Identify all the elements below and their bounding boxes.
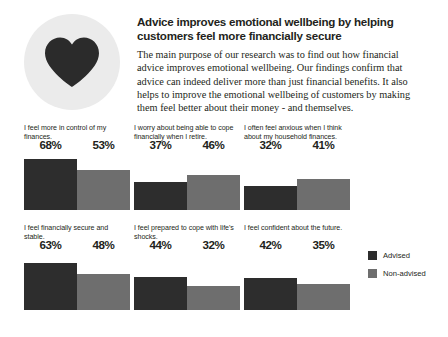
bar-fill-nonadvised [77,170,130,210]
chart-grid: I feel more in control of my finances. 6… [0,118,448,318]
bar-value-advised: 37% [134,138,187,152]
bar-value-nonadvised: 41% [297,138,350,152]
intro-paragraph: The main purpose of our research was to … [137,48,425,114]
bar-fill-advised [244,278,297,310]
bar-nonadvised: 32% [187,252,240,310]
bar-value-advised: 68% [24,138,77,152]
chart-panel: I worry about being able to cope financi… [134,118,244,218]
chart-legend: Advised Non-advised [368,251,426,287]
bar-nonadvised: 46% [187,152,240,210]
header-text: Advice improves emotional wellbeing by h… [137,10,440,114]
bar-group: 44% 32% [134,252,240,310]
bar-value-nonadvised: 53% [77,138,130,152]
bar-value-advised: 44% [134,238,187,252]
bar-value-nonadvised: 35% [297,238,350,252]
bar-value-advised: 32% [244,138,297,152]
legend-label-nonadvised: Non-advised [383,269,426,278]
bar-advised: 42% [244,252,297,310]
bar-advised: 37% [134,152,187,210]
bar-fill-nonadvised [187,175,240,210]
header: Advice improves emotional wellbeing by h… [0,0,448,112]
bar-fill-nonadvised [187,286,240,310]
bar-fill-nonadvised [297,179,350,210]
legend-item-nonadvised: Non-advised [368,269,426,278]
bar-group: 42% 35% [244,252,350,310]
bar-fill-advised [24,159,77,210]
chart-caption: I feel confident about the future. [244,224,348,233]
page-title: Advice improves emotional wellbeing by h… [137,15,409,42]
bar-value-nonadvised: 48% [77,238,130,252]
chart-panel: I feel financially secure and stable. 63… [24,218,134,318]
bar-group: 37% 46% [134,152,240,210]
chart-row-1: I feel more in control of my finances. 6… [0,118,448,218]
bar-advised: 63% [24,252,77,310]
bar-nonadvised: 35% [297,252,350,310]
bar-advised: 68% [24,152,77,210]
chart-panel: I feel prepared to cope with life's shoc… [134,218,244,318]
bar-fill-nonadvised [77,274,130,310]
bar-group: 32% 41% [244,152,350,210]
bar-value-nonadvised: 46% [187,138,240,152]
bar-fill-nonadvised [297,284,350,310]
heart-icon [43,36,101,88]
legend-item-advised: Advised [368,251,426,260]
legend-label-advised: Advised [383,251,410,260]
bar-value-nonadvised: 32% [187,238,240,252]
bar-group: 63% 48% [24,252,130,310]
legend-swatch-advised [368,251,377,260]
chart-panel: I often feel anxious when I think about … [244,118,354,218]
bar-fill-advised [134,277,187,310]
chart-panel: I feel more in control of my finances. 6… [24,118,134,218]
bar-value-advised: 42% [244,238,297,252]
bar-group: 68% 53% [24,152,130,210]
bar-nonadvised: 41% [297,152,350,210]
legend-swatch-nonadvised [368,269,377,278]
heart-icon-badge [24,14,120,110]
bar-nonadvised: 53% [77,152,130,210]
bar-fill-advised [134,182,187,210]
chart-panel: I feel confident about the future. 42% 3… [244,218,354,318]
bar-advised: 32% [244,152,297,210]
bar-fill-advised [244,186,297,210]
bar-nonadvised: 48% [77,252,130,310]
bar-value-advised: 63% [24,238,77,252]
bar-advised: 44% [134,252,187,310]
bar-fill-advised [24,263,77,310]
